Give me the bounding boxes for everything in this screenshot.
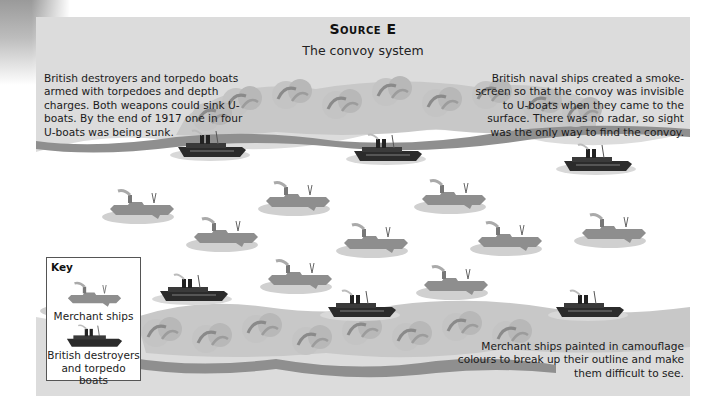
- caption-destroyers: British destroyers and torpedo boats arm…: [44, 72, 254, 139]
- caption-camouflage: Merchant ships painted in camouflage col…: [444, 340, 684, 380]
- legend-key: Key Merchant ships British destroyers an…: [46, 257, 141, 381]
- caption-smoke-screen: British naval ships created a smoke-scre…: [474, 72, 684, 139]
- source-title: Source E: [36, 21, 690, 37]
- destroyer-icon: [57, 324, 132, 350]
- key-title: Key: [51, 261, 73, 273]
- source-e-panel: Source E The convoy system British destr…: [36, 17, 690, 396]
- merchant-ship-icon: [57, 280, 132, 310]
- key-label-merchant: Merchant ships: [47, 310, 140, 323]
- key-label-destroyer: British destroyers and torpedo boats: [47, 349, 140, 387]
- source-subtitle: The convoy system: [36, 43, 690, 58]
